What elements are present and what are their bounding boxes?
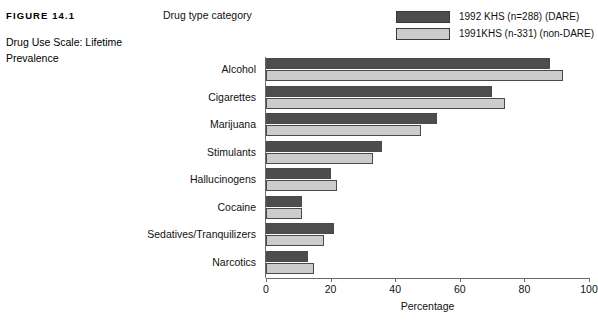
x-axis-tick — [266, 278, 267, 282]
legend-item[interactable]: 1992 KHS (n=288) (DARE) — [396, 8, 594, 25]
x-axis-tick-label: 0 — [263, 283, 269, 295]
x-axis-tick — [460, 278, 461, 282]
figure-number: FIGURE 14.1 — [6, 10, 134, 21]
x-axis-tick-label: 60 — [454, 283, 466, 295]
category-label: Sedatives/Tranquilizers — [147, 228, 256, 240]
bar-fill — [266, 180, 337, 191]
category-label: Alcohol — [222, 63, 256, 75]
bar-fill — [266, 263, 314, 274]
legend-item[interactable]: 1991KHS (n-331) (non-DARE) — [396, 25, 594, 42]
x-axis-tick-label: 20 — [325, 283, 337, 295]
category-label: Stimulants — [207, 146, 256, 158]
bar — [266, 196, 302, 207]
bar-fill — [266, 86, 492, 97]
bar-fill — [266, 141, 382, 152]
bar — [266, 98, 505, 109]
bar — [266, 251, 308, 262]
bar — [266, 113, 437, 124]
bar-fill — [266, 251, 308, 262]
category-label: Hallucinogens — [190, 173, 256, 185]
bar — [266, 86, 492, 97]
bar — [266, 263, 314, 274]
bar-fill — [266, 58, 550, 69]
plot-area — [266, 57, 589, 277]
bar-fill — [266, 168, 331, 179]
category-label: Narcotics — [212, 256, 256, 268]
bar — [266, 168, 331, 179]
x-axis-title: Percentage — [266, 300, 589, 312]
bar — [266, 223, 334, 234]
x-axis-tick — [589, 278, 590, 282]
bar-fill — [266, 223, 334, 234]
x-axis-tick-label: 80 — [519, 283, 531, 295]
bar — [266, 70, 563, 81]
bar-fill — [266, 125, 421, 136]
category-label: Cigarettes — [208, 91, 256, 103]
bar — [266, 58, 550, 69]
bar — [266, 208, 302, 219]
category-axis-labels: AlcoholCigarettesMarijuanaStimulantsHall… — [0, 57, 262, 277]
legend-swatch — [396, 28, 450, 40]
bar — [266, 235, 324, 246]
legend-swatch — [396, 11, 450, 23]
bar — [266, 180, 337, 191]
category-label: Marijuana — [210, 118, 256, 130]
x-axis-tick-label: 100 — [580, 283, 598, 295]
chart-legend: 1992 KHS (n=288) (DARE)1991KHS (n-331) (… — [396, 8, 594, 42]
bar-fill — [266, 196, 302, 207]
bar-fill — [266, 235, 324, 246]
x-axis-tick — [331, 278, 332, 282]
legend-label: 1991KHS (n-331) (non-DARE) — [459, 28, 594, 39]
legend-label: 1992 KHS (n=288) (DARE) — [459, 11, 579, 22]
category-label: Cocaine — [217, 201, 256, 213]
bar-fill — [266, 208, 302, 219]
bar — [266, 153, 373, 164]
bar-fill — [266, 70, 563, 81]
x-axis-tick — [524, 278, 525, 282]
bar — [266, 125, 421, 136]
x-axis-line — [266, 278, 589, 279]
y-axis-title: Drug type category — [163, 9, 252, 21]
x-axis-tick-label: 40 — [389, 283, 401, 295]
bar-fill — [266, 113, 437, 124]
bar-fill — [266, 153, 373, 164]
bar — [266, 141, 382, 152]
x-axis-tick — [395, 278, 396, 282]
bar-fill — [266, 98, 505, 109]
